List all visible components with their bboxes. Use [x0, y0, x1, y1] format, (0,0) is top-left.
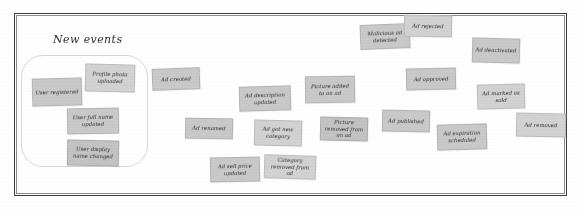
sticky-note[interactable]: Ad removed	[516, 113, 566, 138]
eventstorming-board-canvas: New events User registeredProfile photo …	[0, 0, 583, 212]
sticky-note[interactable]: Ad created	[152, 67, 201, 91]
new-events-group-label: New events	[53, 33, 122, 46]
sticky-note[interactable]: Ad expiration scheduled	[437, 123, 488, 150]
sticky-note[interactable]: Ad description updated	[239, 85, 292, 111]
sticky-note[interactable]: User display name changed	[67, 139, 120, 166]
sticky-note[interactable]: User full name updated	[67, 108, 119, 135]
sticky-note[interactable]: Ad renamed	[185, 118, 233, 140]
sticky-note[interactable]: Ad approved	[406, 67, 456, 90]
sticky-note[interactable]: Ad sell price updated	[210, 156, 261, 182]
sticky-note[interactable]: Profile photo uploaded	[85, 63, 136, 92]
sticky-note[interactable]: User registered	[32, 77, 83, 106]
sticky-note[interactable]: Ad published	[382, 109, 430, 132]
sticky-note[interactable]: Ad got new category	[254, 119, 303, 146]
sticky-note[interactable]: Category removed from ad	[264, 154, 317, 180]
sticky-note[interactable]: Picture added to an ad	[305, 76, 355, 104]
sticky-note[interactable]: Ad deactivated	[472, 37, 521, 63]
sticky-note[interactable]: Picture removed from an ad	[320, 116, 369, 141]
sticky-note[interactable]: Ad marked as sold	[477, 83, 526, 109]
sticky-note[interactable]: Ad rejected	[404, 15, 452, 38]
